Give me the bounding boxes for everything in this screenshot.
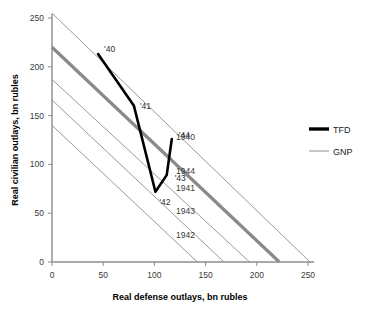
- y-axis-title: Real civilian outlays, bn rubles: [10, 74, 20, 206]
- x-tick-label-200: 200: [250, 270, 264, 280]
- x-tick-label-250: 250: [301, 270, 315, 280]
- gnp-line-1944: [52, 47, 279, 262]
- x-tick-label-0: 0: [50, 270, 55, 280]
- legend-label-GNP: GNP: [333, 147, 353, 157]
- y-tick-label-100: 100: [30, 159, 44, 169]
- chart-container: 050100150200250050100150200250 194019441…: [0, 0, 379, 315]
- data-point-label-42: '42: [159, 197, 170, 207]
- y-tick-label-150: 150: [30, 111, 44, 121]
- data-point-label-41: '41: [140, 101, 151, 111]
- legend-label-TFD: TFD: [333, 125, 351, 135]
- tfd-path: [98, 54, 172, 192]
- data-point-label-43: '43: [175, 173, 186, 183]
- chart-plot-area: 050100150200250050100150200250 194019441…: [0, 0, 379, 315]
- gnp-label-1941: 1941: [176, 183, 195, 193]
- data-point-label-40: '40: [104, 44, 115, 54]
- data-point-label-44: '44: [179, 130, 190, 140]
- legend: TFDGNP: [309, 125, 353, 157]
- gnp-label-1942: 1942: [176, 230, 195, 240]
- data-point-label-group: '40'41'42'43'44: [104, 44, 190, 207]
- y-tick-label-0: 0: [39, 257, 44, 267]
- x-tick-label-50: 50: [98, 270, 108, 280]
- tick-label-group: 050100150200250050100150200250: [30, 13, 316, 280]
- axis-title-group: Real defense outlays, bn rublesReal civi…: [10, 74, 248, 302]
- y-tick-label-200: 200: [30, 62, 44, 72]
- x-axis-title: Real defense outlays, bn rubles: [112, 292, 247, 302]
- gnp-label-1943: 1943: [176, 206, 195, 216]
- y-tick-label-50: 50: [35, 208, 45, 218]
- y-tick-label-250: 250: [30, 13, 44, 23]
- x-tick-label-150: 150: [199, 270, 213, 280]
- x-tick-label-100: 100: [147, 270, 161, 280]
- tfd-series-group: [98, 54, 172, 192]
